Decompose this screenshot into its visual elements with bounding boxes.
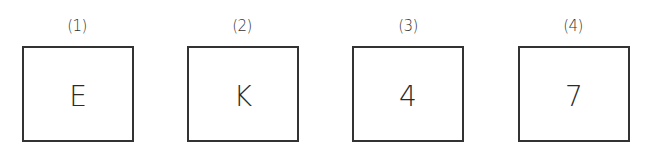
item-label-3: (3) — [378, 17, 438, 35]
item-label-1: (1) — [47, 17, 107, 35]
item-box-3: 4 — [352, 46, 464, 142]
item-box-4: 7 — [518, 46, 630, 142]
item-value-4: 7 — [565, 80, 583, 113]
item-value-2: K — [234, 80, 252, 113]
item-label-2: (2) — [212, 17, 272, 35]
item-value-3: 4 — [399, 80, 417, 113]
item-label-4: (4) — [543, 17, 603, 35]
item-value-1: E — [69, 80, 87, 113]
item-box-1: E — [22, 46, 134, 142]
item-box-2: K — [187, 46, 299, 142]
